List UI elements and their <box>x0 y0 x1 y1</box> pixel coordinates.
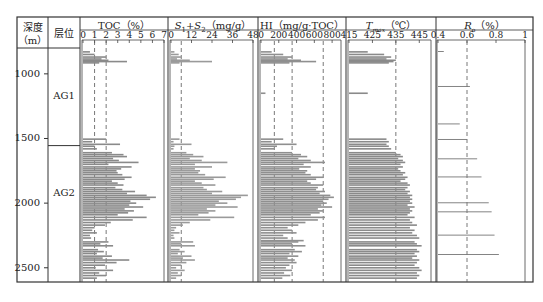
x-tick-label: 0 <box>258 30 264 40</box>
sample-bar <box>171 144 192 146</box>
sample-bar <box>261 148 274 150</box>
sample-bar <box>171 270 185 272</box>
sample-bar <box>261 166 311 168</box>
sample-bar <box>261 275 290 277</box>
sample-bar <box>261 222 305 224</box>
x-tick-label: 445 <box>411 30 428 40</box>
sample-bar <box>261 217 325 219</box>
x-tick-label: 3 <box>115 30 121 40</box>
sample-bar <box>83 210 134 212</box>
sample-bar <box>349 272 417 274</box>
sample-bar <box>349 160 403 162</box>
sample-bar <box>171 200 219 202</box>
sample-bar <box>83 200 130 202</box>
sample-bar <box>261 243 292 245</box>
sample-bar <box>83 170 117 172</box>
sample-bar <box>261 206 332 208</box>
sample-bar <box>349 158 398 160</box>
sample-bar <box>349 249 417 251</box>
sample-bar <box>83 222 111 224</box>
sample-bar <box>349 152 396 154</box>
x-tick-label: 415 <box>340 30 357 40</box>
sample-bar <box>171 262 186 264</box>
sample-bar <box>349 144 386 146</box>
sample-bar <box>171 154 193 156</box>
sample-bar <box>83 51 90 53</box>
sample-bar <box>261 257 288 259</box>
sample-bar <box>83 270 113 272</box>
sample-bar <box>349 174 403 176</box>
sample-bar <box>83 237 91 239</box>
x-tick-label: 1 <box>92 30 98 40</box>
sample-bar <box>83 204 129 206</box>
sample-bar <box>83 162 139 164</box>
sample-bar <box>171 264 181 266</box>
sample-bar <box>349 138 386 140</box>
sample-bar <box>261 187 318 189</box>
sample-bar <box>349 208 410 210</box>
sample-bar <box>438 86 470 87</box>
sample-bar <box>261 270 292 272</box>
sample-bar <box>171 202 227 204</box>
sample-bar <box>83 148 97 150</box>
sample-bar <box>261 62 289 64</box>
sample-bar <box>171 237 174 239</box>
sample-bar <box>171 214 198 216</box>
sample-bar <box>83 259 129 261</box>
sample-bar <box>261 229 292 231</box>
sample-bar <box>171 170 200 172</box>
sample-bar <box>83 184 124 186</box>
x-tick-label: 0.4 <box>431 30 445 40</box>
sample-bar <box>261 168 299 170</box>
sample-bar <box>438 254 499 255</box>
sample-bar <box>261 180 307 182</box>
sample-bar <box>83 141 92 143</box>
sample-bar <box>171 255 192 257</box>
sample-bar <box>349 195 412 197</box>
sample-bar <box>83 54 95 56</box>
sample-bar <box>83 241 108 243</box>
sample-bar <box>349 245 422 247</box>
sample-bar <box>349 232 412 234</box>
sample-bar <box>83 178 125 180</box>
sample-bar <box>438 176 482 177</box>
sample-bar <box>171 241 193 243</box>
sample-bar <box>438 123 460 124</box>
sample-bar <box>261 92 265 94</box>
sample-bar <box>83 193 127 195</box>
sample-bar <box>261 189 316 191</box>
x-tick-label: 800 <box>324 30 341 40</box>
sample-bar <box>261 182 311 184</box>
sample-bar <box>261 277 282 279</box>
sample-bar <box>349 198 412 200</box>
sample-bar <box>261 208 318 210</box>
sample-bar <box>349 164 401 166</box>
sample-bar <box>171 249 180 251</box>
sample-bar <box>171 168 195 170</box>
sample-bar <box>349 270 422 272</box>
sample-bar <box>261 200 323 202</box>
sample-bar <box>83 152 112 154</box>
sample-bar <box>349 156 403 158</box>
sample-bar <box>261 178 316 180</box>
sample-bar <box>261 212 320 214</box>
sample-bar <box>438 139 467 140</box>
sample-bar <box>349 204 408 206</box>
sample-bar <box>261 195 330 197</box>
sample-bar <box>261 144 297 146</box>
sample-bar <box>171 206 238 208</box>
sample-bar <box>349 170 401 172</box>
sample-bar <box>83 154 124 156</box>
sample-bar <box>171 174 205 176</box>
sample-bar <box>261 214 311 216</box>
sample-bar <box>83 187 115 189</box>
sample-bar <box>349 202 412 204</box>
sample-bar <box>171 145 174 147</box>
sample-bar <box>261 145 277 147</box>
x-tick-label: 200 <box>270 30 287 40</box>
sample-bar <box>83 232 97 234</box>
sample-bar <box>83 166 132 168</box>
sample-bar <box>83 272 99 274</box>
sample-bar <box>171 152 186 154</box>
sample-bar <box>349 255 417 257</box>
